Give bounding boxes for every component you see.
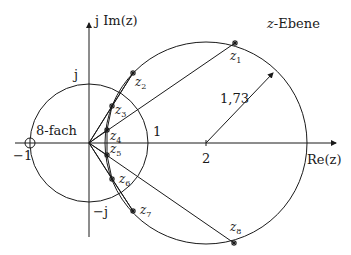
- unit-label-bottom: −j: [93, 204, 108, 219]
- real-axis-label: Re(z): [307, 152, 341, 167]
- radius-arrow: [206, 73, 273, 143]
- pole-marker-icon: [25, 138, 35, 148]
- svg-text:z3: z3: [114, 103, 126, 119]
- center-label: 2: [202, 151, 210, 166]
- unit-label-left: −1: [13, 148, 32, 163]
- imag-axis-label: j Im(z): [93, 13, 138, 28]
- svg-text:z1: z1: [229, 49, 241, 65]
- svg-text:z2: z2: [134, 75, 146, 91]
- svg-text:z6: z6: [118, 172, 130, 188]
- unit-label-top: j: [72, 67, 78, 82]
- plane-label: z-Ebene: [266, 16, 320, 31]
- pole-multiplicity-label: 8-fach: [36, 123, 78, 138]
- radius-label: 1,73: [220, 91, 249, 106]
- z-plane-diagram: j Im(z) Re(z) z-Ebene j −j 1 −1 8-fach 2…: [0, 0, 351, 255]
- unit-label-right: 1: [153, 124, 161, 139]
- svg-text:z7: z7: [139, 203, 151, 219]
- svg-text:z8: z8: [229, 220, 241, 236]
